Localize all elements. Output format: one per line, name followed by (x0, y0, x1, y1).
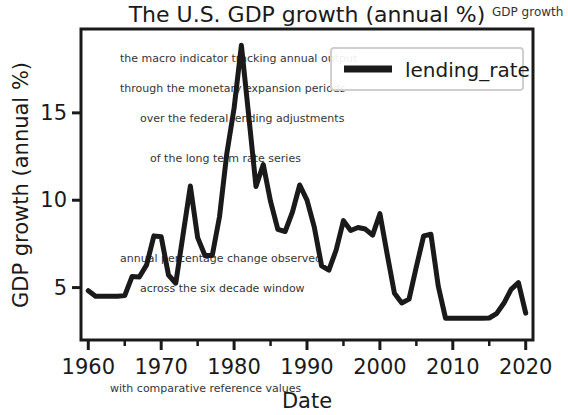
y-tick-label: 15 (40, 101, 67, 125)
bleed-line-7: with comparative reference values (110, 382, 302, 395)
y-tick-label: 10 (40, 188, 67, 212)
chart-figure: GDP growth the macro indicator tracking … (0, 0, 568, 415)
x-tick-label: 2010 (426, 355, 479, 379)
x-tick-label: 1970 (134, 355, 187, 379)
y-tick-label: 5 (54, 276, 67, 300)
chart-legend[interactable]: lending_rate (331, 48, 530, 90)
x-tick-label: 1960 (62, 355, 115, 379)
y-axis-title: GDP growth (annual %) (9, 62, 33, 308)
x-tick-label: 2000 (353, 355, 406, 379)
x-tick-label: 1990 (280, 355, 333, 379)
x-axis-title: Date (282, 389, 332, 413)
bleed-line-0: GDP growth (492, 5, 563, 19)
bleed-line-6: across the six decade window (140, 282, 305, 295)
bleed-line-2: through the monetary expansion periods (120, 82, 346, 95)
chart-title: The U.S. GDP growth (annual %) (128, 2, 486, 27)
legend-label-lending-rate: lending_rate (405, 58, 530, 82)
bleed-line-3: over the federal lending adjustments (140, 112, 345, 125)
gdp-growth-line-chart: GDP growth the macro indicator tracking … (0, 0, 568, 415)
x-tick-label: 2020 (499, 355, 552, 379)
x-tick-label: 1980 (207, 355, 260, 379)
